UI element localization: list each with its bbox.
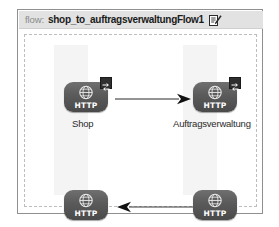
flow-header: flow: shop_to_auftragsverwaltungFlow1 <box>19 11 263 29</box>
exchange-badge-icon <box>100 77 112 89</box>
exchange-badge-icon <box>229 77 241 89</box>
node-bottom-left[interactable]: HTTP <box>64 190 108 220</box>
node-shop[interactable]: HTTP <box>64 82 108 112</box>
node-caption-shop: Shop <box>72 118 93 129</box>
node-type-label: HTTP <box>193 209 237 218</box>
node-caption-auftragsverwaltung: Auftragsverwaltung <box>173 118 251 129</box>
node-type-label: HTTP <box>64 209 108 218</box>
node-body: HTTP <box>64 190 108 220</box>
node-type-label: HTTP <box>64 101 108 110</box>
node-body: HTTP <box>193 190 237 220</box>
flow-canvas[interactable]: HTTP <box>24 34 257 207</box>
edit-pencil-icon[interactable] <box>209 13 222 26</box>
connector-arrow-right[interactable] <box>115 91 193 103</box>
node-auftragsverwaltung[interactable]: HTTP <box>193 82 237 112</box>
node-bottom-right[interactable]: HTTP <box>193 190 237 220</box>
flow-name-label: shop_to_auftragsverwaltungFlow1 <box>48 14 204 25</box>
node-type-label: HTTP <box>193 101 237 110</box>
connector-arrow-left[interactable] <box>115 199 193 211</box>
flow-keyword-label: flow: <box>25 14 44 25</box>
flow-editor-screenshot: flow: shop_to_auftragsverwaltungFlow1 <box>0 0 279 227</box>
flow-panel: flow: shop_to_auftragsverwaltungFlow1 <box>17 9 263 214</box>
